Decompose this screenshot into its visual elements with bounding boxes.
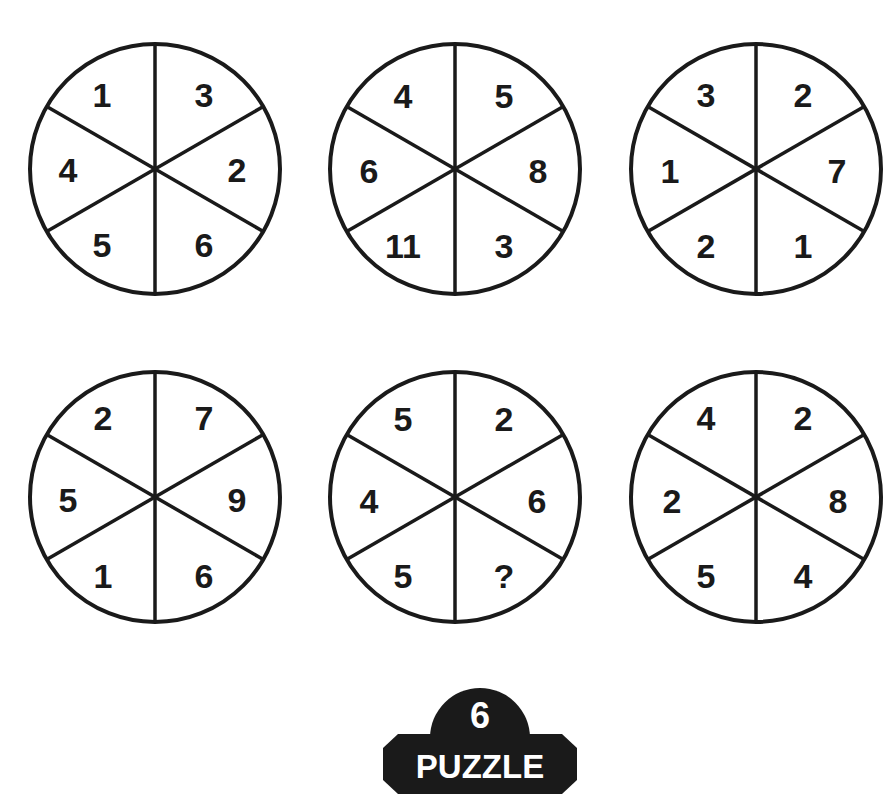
segment-bottom-right: 4 [773, 559, 833, 593]
segment-left: 4 [38, 153, 98, 187]
segment-top-left: 5 [373, 402, 433, 436]
segment-right: 2 [207, 153, 267, 187]
segment-right: 6 [507, 484, 567, 518]
segment-top-left: 2 [73, 401, 133, 435]
number-wheel-bottom-right: 4 2 8 4 5 2 [628, 368, 884, 626]
puzzle-number: 6 [380, 698, 580, 734]
segment-top-left: 1 [72, 78, 132, 112]
segment-bottom-left: 5 [373, 559, 433, 593]
segment-top-right: 7 [174, 401, 234, 435]
segment-right: 9 [207, 483, 267, 517]
number-wheel-top-right: 3 2 7 1 2 1 [628, 40, 884, 298]
segment-top-right: 2 [773, 78, 833, 112]
segment-top-left: 3 [676, 78, 736, 112]
segment-top-right: 3 [174, 78, 234, 112]
segment-right: 8 [808, 484, 868, 518]
segment-bottom-right: 1 [773, 229, 833, 263]
segment-bottom-left: 1 [73, 559, 133, 593]
puzzle-badge: 6 PUZZLE [380, 676, 580, 794]
segment-bottom-left: 2 [676, 229, 736, 263]
segment-right: 8 [508, 154, 568, 188]
segment-top-right: 5 [474, 79, 534, 113]
segment-left: 5 [38, 483, 98, 517]
segment-bottom-left: 5 [676, 559, 736, 593]
segment-right: 7 [807, 154, 867, 188]
segment-bottom-left: 11 [373, 229, 433, 263]
segment-bottom-right: 6 [174, 559, 234, 593]
segment-top-right: 2 [773, 401, 833, 435]
number-wheel-bottom-left: 2 7 9 6 1 5 [27, 368, 283, 626]
segment-top-right: 2 [474, 402, 534, 436]
segment-bottom-right: 3 [474, 229, 534, 263]
segment-bottom-right-unknown: ? [474, 559, 534, 593]
segment-left: 6 [339, 154, 399, 188]
segment-top-left: 4 [676, 401, 736, 435]
number-wheel-bottom-center: 5 2 6 ? 5 4 [327, 368, 583, 626]
segment-bottom-right: 6 [174, 228, 234, 262]
segment-bottom-left: 5 [72, 228, 132, 262]
number-wheel-top-center: 4 5 8 3 11 6 [327, 40, 583, 298]
segment-left: 4 [339, 484, 399, 518]
segment-left: 2 [642, 484, 702, 518]
number-wheel-top-left: 1 3 2 6 5 4 [27, 40, 283, 298]
puzzle-label: PUZZLE [380, 750, 580, 783]
segment-top-left: 4 [373, 79, 433, 113]
segment-left: 1 [640, 154, 700, 188]
